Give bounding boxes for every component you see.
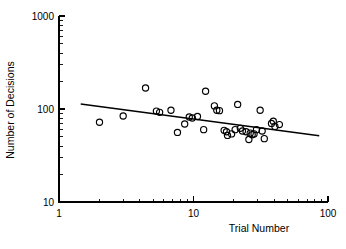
scatter-plot: 101001000110100 Trial Number Number of D… xyxy=(0,0,346,249)
data-point xyxy=(201,127,207,133)
data-point xyxy=(168,107,174,113)
chart-figure: 101001000110100 Trial Number Number of D… xyxy=(0,0,346,249)
regression-line xyxy=(81,104,319,136)
axes xyxy=(59,16,328,202)
x-tick-label: 10 xyxy=(188,208,200,219)
data-point xyxy=(174,129,180,135)
x-axis-title: Trial Number xyxy=(229,222,290,234)
y-axis-title: Number of Decisions xyxy=(4,61,16,158)
data-point xyxy=(224,132,230,138)
axis-tick-labels: 101001000110100 xyxy=(32,11,337,219)
y-tick-label: 100 xyxy=(37,104,54,115)
regression-trend-line xyxy=(81,104,319,136)
data-point xyxy=(96,119,102,125)
data-point xyxy=(182,121,188,127)
x-tick-label: 100 xyxy=(320,208,337,219)
y-tick-label: 10 xyxy=(43,197,55,208)
axis-ticks xyxy=(59,16,328,202)
data-point xyxy=(120,113,126,119)
data-points xyxy=(96,85,282,143)
data-point xyxy=(243,129,249,135)
axis-spine xyxy=(59,16,328,202)
x-tick-label: 1 xyxy=(56,208,62,219)
data-point xyxy=(235,101,241,107)
data-point xyxy=(202,88,208,94)
data-point xyxy=(261,136,267,142)
data-point xyxy=(142,85,148,91)
data-point xyxy=(257,107,263,113)
y-tick-label: 1000 xyxy=(32,11,55,22)
